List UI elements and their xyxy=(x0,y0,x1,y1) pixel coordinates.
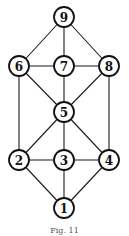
node-1: 1 xyxy=(54,198,74,218)
node-9: 9 xyxy=(54,7,74,27)
node-7: 7 xyxy=(54,56,74,76)
node-label: 7 xyxy=(60,60,68,74)
node-label: 3 xyxy=(60,154,68,168)
node-4: 4 xyxy=(99,150,119,170)
node-label: 2 xyxy=(15,154,23,168)
node-6: 6 xyxy=(9,56,29,76)
node-label: 4 xyxy=(105,154,113,168)
node-label: 9 xyxy=(60,11,68,25)
figure-caption: Fig. 11 xyxy=(0,226,129,235)
node-2: 2 xyxy=(9,150,29,170)
node-label: 5 xyxy=(60,106,68,120)
graph-diagram: 123456789 xyxy=(0,0,129,236)
node-label: 8 xyxy=(105,60,113,74)
node-label: 1 xyxy=(60,202,68,216)
node-label: 6 xyxy=(15,60,23,74)
node-3: 3 xyxy=(54,150,74,170)
node-8: 8 xyxy=(99,56,119,76)
node-5: 5 xyxy=(54,102,74,122)
